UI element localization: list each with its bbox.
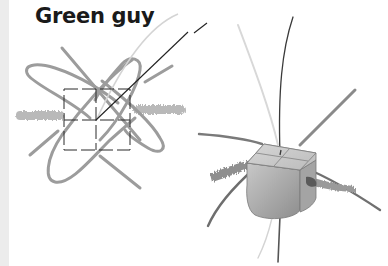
flat-diagram	[16, 14, 207, 188]
ink-strand-end	[194, 23, 207, 33]
illustration	[0, 0, 388, 266]
light-strand	[96, 14, 178, 121]
cube-3d	[199, 17, 380, 262]
cube-body	[247, 144, 317, 219]
radiating-strands	[199, 17, 380, 262]
